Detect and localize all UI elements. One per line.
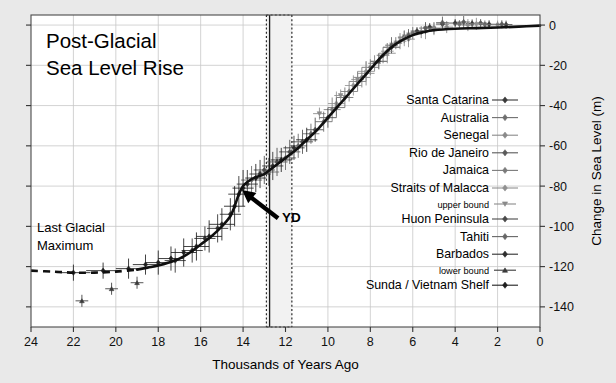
y-tick-label: -20	[549, 59, 567, 73]
legend-item-label: Straits of Malacca	[391, 181, 490, 195]
legend-item-label: Tahiti	[460, 230, 489, 244]
legend-item-label: Barbados	[436, 247, 489, 261]
legend-item-label: Jamaica	[443, 163, 489, 177]
x-tick-label: 2	[494, 335, 501, 349]
x-tick-label: 18	[151, 335, 165, 349]
x-axis-title: Thousands of Years Ago	[212, 357, 358, 372]
chart-title-line2: Sea Level Rise	[46, 56, 184, 79]
x-tick-label: 6	[409, 335, 416, 349]
y-axis-title: Change in Sea Level (m)	[589, 96, 604, 245]
lgm-annotation-line1: Last Glacial	[37, 220, 105, 235]
chart-title-line1: Post-Glacial	[46, 29, 157, 52]
legend-item-label: Senegal	[444, 128, 489, 142]
legend-item-label: Rio de Janeiro	[409, 146, 489, 160]
x-tick-label: 22	[66, 335, 80, 349]
legend-item-label: upper bound	[437, 200, 489, 210]
y-tick-label: -80	[549, 180, 567, 194]
legend-item-label: Huon Peninsula	[402, 212, 490, 226]
y-tick-label: -140	[549, 300, 574, 314]
x-tick-label: 12	[279, 335, 293, 349]
x-tick-label: 10	[321, 335, 335, 349]
yd-annotation: YD	[282, 210, 301, 225]
sea-level-chart-figure: 2422201816141210864200-20-40-60-80-100-1…	[0, 0, 616, 383]
x-tick-label: 16	[194, 335, 208, 349]
legend-item-label: Australia	[441, 111, 489, 125]
x-tick-label: 4	[452, 335, 459, 349]
legend-item-label: Santa Catarina	[406, 93, 489, 107]
y-tick-label: 0	[549, 19, 556, 33]
legend-item-label: Sunda / Vietnam Shelf	[366, 278, 490, 292]
x-tick-label: 0	[537, 335, 544, 349]
legend-item-label: lower bound	[439, 266, 489, 276]
x-tick-label: 14	[236, 335, 250, 349]
y-tick-label: -60	[549, 139, 567, 153]
chart-svg: 2422201816141210864200-20-40-60-80-100-1…	[0, 0, 616, 383]
lgm-annotation-line2: Maximum	[37, 238, 93, 253]
x-tick-label: 24	[24, 335, 38, 349]
y-tick-label: -120	[549, 260, 574, 274]
x-tick-label: 20	[109, 335, 123, 349]
y-tick-label: -100	[549, 220, 574, 234]
x-tick-label: 8	[367, 335, 374, 349]
y-tick-label: -40	[549, 99, 567, 113]
